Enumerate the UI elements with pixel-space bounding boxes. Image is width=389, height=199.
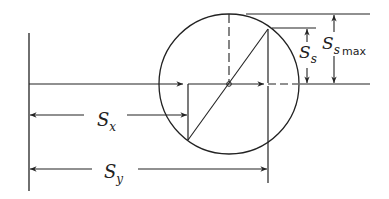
ss-max-label: Ss	[322, 33, 340, 57]
ss-max-suffix: max	[342, 45, 366, 58]
sx-label: Sx	[97, 109, 116, 134]
ss-label: Ss	[299, 42, 317, 66]
sy-label: Sy	[104, 161, 123, 186]
mohr-circle-diagram: Sx Sy Ss Ss max	[0, 0, 389, 199]
